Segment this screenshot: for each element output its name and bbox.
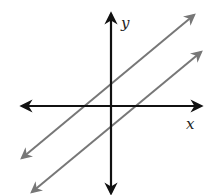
y-axis-label: y [120, 14, 130, 32]
upper-line [22, 15, 194, 158]
coordinate-plane: y x [0, 0, 208, 195]
lower-line [32, 52, 201, 192]
x-axis-label: x [186, 115, 195, 133]
